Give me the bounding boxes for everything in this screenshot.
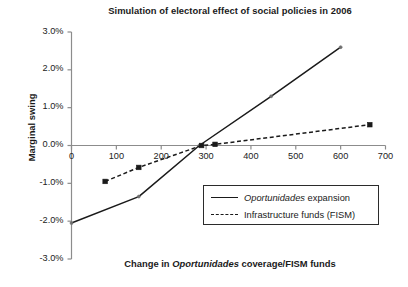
data-point-marker xyxy=(137,195,140,198)
y-tick-label: 3.0% xyxy=(20,26,64,36)
chart-figure: Simulation of electoral effect of social… xyxy=(0,0,408,287)
x-tick-label: 600 xyxy=(321,151,361,161)
y-tick-label: -2.0% xyxy=(20,215,64,225)
data-point-marker xyxy=(213,142,218,147)
x-tick-label: 100 xyxy=(96,151,136,161)
data-point-marker xyxy=(368,122,373,127)
data-point-marker xyxy=(199,143,204,148)
legend: Oportunidades expansion Infrastructure f… xyxy=(203,185,379,225)
x-tick-label: 500 xyxy=(276,151,316,161)
x-tick-label: 700 xyxy=(366,151,406,161)
y-tick-label: -3.0% xyxy=(20,253,64,263)
legend-item-0: Oportunidades expansion xyxy=(211,189,350,206)
y-tick-label: -1.0% xyxy=(20,177,64,187)
x-tick-label: 400 xyxy=(231,151,271,161)
legend-label-0: Oportunidades expansion xyxy=(244,193,350,203)
y-tick-label: 2.0% xyxy=(20,63,64,73)
x-tick-label: 200 xyxy=(141,151,181,161)
legend-label-1: Infrastructure funds (FISM) xyxy=(244,210,355,220)
data-point-marker xyxy=(103,179,108,184)
legend-key-dashed-line-icon xyxy=(211,210,238,220)
y-tick-label: 0.0% xyxy=(20,139,64,149)
legend-item-1: Infrastructure funds (FISM) xyxy=(211,206,355,223)
data-point-marker xyxy=(136,165,141,170)
x-tick-label: 300 xyxy=(186,151,226,161)
y-tick-label: 1.0% xyxy=(20,101,64,111)
data-point-marker xyxy=(339,46,342,49)
data-point-marker xyxy=(270,95,273,98)
x-axis-title: Change in Oportunidades coverage/FISM fu… xyxy=(60,258,400,269)
data-point-marker xyxy=(70,222,73,225)
x-tick-label: 0 xyxy=(52,151,92,161)
legend-key-solid-line-icon xyxy=(211,193,238,203)
